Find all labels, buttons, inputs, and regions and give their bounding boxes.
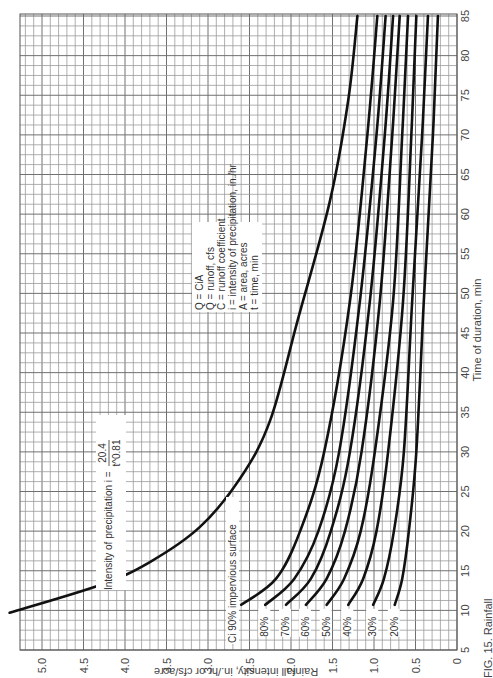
ci-curve xyxy=(373,16,428,605)
equation-legend: Q = CiAQ = runoff, cfsC = runoff coeffic… xyxy=(192,163,262,312)
time-tick-label: 65 xyxy=(459,168,471,180)
intensity-tick-label: 0.5 xyxy=(410,658,422,673)
legend-line: Q = runoff, cfs xyxy=(205,247,216,310)
time-tick-label: 45 xyxy=(459,327,471,339)
time-tick-label: 5 xyxy=(459,647,471,653)
percent-labels: 80%70%60%50%40%30%20% xyxy=(258,609,399,637)
time-tick-label: 80 xyxy=(459,50,471,62)
intensity-tick-label: 0 xyxy=(451,658,463,664)
time-tick-label: 15 xyxy=(459,565,471,577)
rainfall-intensity-chart: 510152025303540455055606570758085 00.51.… xyxy=(0,0,493,678)
intensity-tick-label: 4.0 xyxy=(119,658,131,673)
time-tick-label: 40 xyxy=(459,367,471,379)
time-tick-label: 50 xyxy=(459,287,471,299)
intensity-tick-label: 4.5 xyxy=(78,658,90,673)
intensity-tick-label: 1.0 xyxy=(368,658,380,673)
intensity-tick-label: 5.0 xyxy=(36,658,48,673)
percent-label: 60% xyxy=(300,617,311,637)
time-tick-label: 70 xyxy=(459,129,471,141)
legend-line: A = area, acres xyxy=(238,242,249,310)
formula-annotation: Intensity of precipitation i = 20.4 t^0.… xyxy=(96,415,126,590)
formula-denominator: t^0.81 xyxy=(111,439,122,466)
percent-label: 50% xyxy=(321,617,332,637)
figure-caption: FIG. 15. Rainfall xyxy=(482,599,493,678)
percent-label: 80% xyxy=(259,617,270,637)
percent-label: 70% xyxy=(280,617,291,637)
percent-label: 20% xyxy=(389,617,400,637)
time-tick-label: 25 xyxy=(459,485,471,497)
time-tick-label: 85 xyxy=(459,10,471,22)
intensity-tick-label: 1.5 xyxy=(327,658,339,673)
formula-label: Intensity of precipitation i = xyxy=(103,471,114,590)
time-axis-ticks: 510152025303540455055606570758085 xyxy=(459,10,471,653)
legend-line: i = intensity of precipitation, in./hr xyxy=(227,163,238,310)
time-tick-label: 10 xyxy=(459,604,471,616)
legend-line: t = time, min xyxy=(249,255,260,310)
x-axis-title: Time of duration, min xyxy=(471,279,483,382)
time-tick-label: 35 xyxy=(459,406,471,418)
legend-line: C = runoff coefficient xyxy=(216,218,227,310)
formula-numerator: 20.4 xyxy=(97,443,108,463)
time-tick-label: 20 xyxy=(459,525,471,537)
time-tick-label: 60 xyxy=(459,208,471,220)
legend-line: Q = CiA xyxy=(194,274,205,310)
time-tick-label: 30 xyxy=(459,446,471,458)
percent-label: 40% xyxy=(342,617,353,637)
time-tick-label: 75 xyxy=(459,89,471,101)
ci-curve xyxy=(286,16,393,605)
ci-impervious-label: Ci 90% impervious surface xyxy=(227,524,238,643)
time-tick-label: 55 xyxy=(459,248,471,260)
percent-label: 30% xyxy=(367,617,378,637)
ci-curve xyxy=(306,16,400,605)
y-axis-title: Rainfall intensity, in./hr or cfs/acre xyxy=(154,666,318,678)
